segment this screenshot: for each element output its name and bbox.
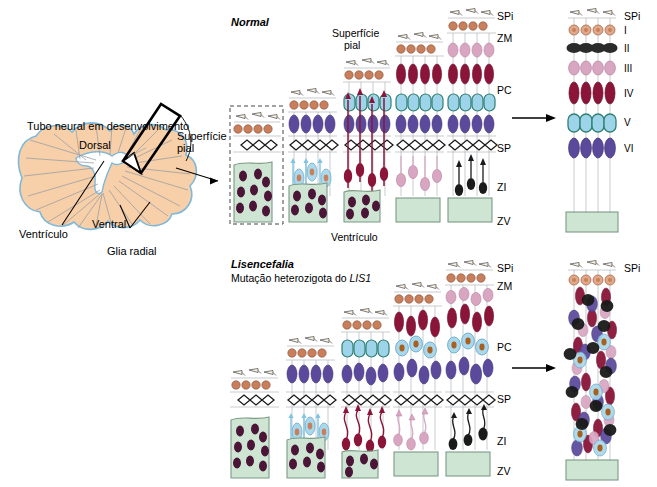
zone-sp-liss: SP (497, 394, 511, 406)
normal-panel-5 (447, 9, 497, 223)
zone-sp-normal: SP (497, 143, 511, 155)
normal-ventricle-label: Ventrículo (331, 232, 378, 244)
normal-panel-3 (343, 59, 393, 223)
row-normal (230, 9, 618, 233)
zone-zm-normal: ZM (497, 33, 512, 45)
zone-zm-liss: ZM (497, 281, 512, 293)
normal-panel-4 (395, 33, 445, 223)
normal-pial-label-1: Superfície (332, 28, 379, 40)
row-lissencephaly (230, 261, 618, 481)
pial-surface-label-2: pial (177, 142, 194, 154)
liss-result-arrowhead (546, 364, 556, 372)
zone-zi-normal: ZI (497, 182, 506, 194)
row-liss-subtitle-pre: Mutação heterozigota do (231, 272, 350, 284)
normal-panel-1 (233, 113, 281, 223)
normal-result-arrowhead (546, 114, 556, 122)
cortical-layer-III: III (624, 63, 632, 74)
pial-surface-label-1: Superfície (177, 130, 227, 142)
liss-panel-3 (341, 309, 391, 479)
row-liss-subtitle-gene: LIS1 (350, 272, 372, 284)
zone-spi-liss: SPi (497, 263, 513, 275)
liss-panel-2 (286, 337, 336, 479)
liss-panel-1 (230, 369, 279, 479)
zone-zv-liss: ZV (497, 466, 510, 478)
normal-result-panel (566, 9, 618, 233)
row-normal-title: Normal (231, 16, 269, 28)
row-liss-subtitle: Mutação heterozigota do LIS1 (231, 273, 371, 285)
zone-zi-liss: ZI (497, 436, 506, 448)
row-liss-title: Lisencefalia (231, 258, 294, 270)
cortical-layer-IV: IV (624, 88, 633, 99)
cortical-layer-VI: VI (624, 143, 633, 154)
normal-panel-2 (288, 89, 338, 223)
result-spi-label-normal: SPi (624, 11, 640, 23)
callout-arrowhead (210, 178, 218, 185)
liss-result-panel (564, 261, 618, 481)
cortical-layer-V: V (624, 117, 631, 128)
dorsal-label: Dorsal (79, 139, 111, 151)
normal-pial-label-2: pial (344, 40, 360, 52)
cortical-layer-II: II (624, 43, 630, 54)
cortical-layer-I: I (624, 25, 627, 36)
result-spi-label-liss: SPi (624, 263, 640, 275)
liss-panel-5 (445, 261, 495, 477)
liss-panel-4 (393, 283, 443, 477)
radial-glia-label: Glia radial (107, 245, 157, 257)
ventricle-label: Ventrículo (19, 228, 68, 240)
figure-cortical-development (0, 0, 657, 487)
ventral-label: Ventral (92, 218, 126, 230)
zone-spi-normal: SPi (497, 11, 513, 23)
zone-pc-liss: PC (497, 342, 512, 354)
neural-tube-title: Tubo neural em desenvolvimento (27, 120, 189, 132)
zone-pc-normal: PC (497, 85, 512, 97)
zone-zv-normal: ZV (497, 216, 510, 228)
